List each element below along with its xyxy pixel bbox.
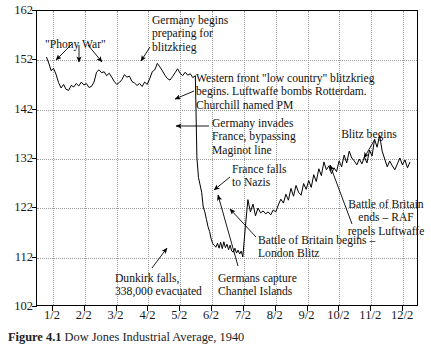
y-axis-tick-mark: [32, 109, 37, 110]
annotation-germany-invades-france: Germany invades France, bypassing Magino…: [212, 117, 296, 157]
annotation-phony-war: "Phony War": [45, 38, 106, 51]
y-axis-tick-label: 142: [14, 101, 33, 116]
figure-container: 162152142132122112102 "Phony War"Germany…: [0, 0, 431, 345]
caption-label: Figure 4.1: [8, 330, 61, 344]
x-axis-tick-mark: [402, 306, 403, 311]
annotation-france-falls: France falls to Nazis: [232, 163, 286, 190]
x-axis-tick-mark: [307, 306, 308, 311]
data-series-line: [37, 11, 417, 305]
y-axis-tick-label: 102: [14, 299, 33, 314]
y-axis-tick-mark: [32, 306, 37, 307]
y-axis-tick-label: 112: [15, 249, 33, 264]
x-axis-tick-mark: [275, 306, 276, 311]
plot-area: [36, 10, 418, 306]
x-axis-tick-mark: [84, 306, 85, 311]
y-axis-tick-mark: [32, 59, 37, 60]
y-axis-tick-label: 122: [14, 200, 33, 215]
x-axis-tick-mark: [179, 306, 180, 311]
x-axis-tick-mark: [243, 306, 244, 311]
x-axis-tick-mark: [211, 306, 212, 311]
y-axis-tick-mark: [32, 158, 37, 159]
annotation-blitz-begins: Blitz begins: [341, 128, 397, 141]
x-axis-tick-mark: [147, 306, 148, 311]
y-axis-tick-mark: [32, 257, 37, 258]
y-axis-ticks: 162152142132122112102: [0, 0, 36, 345]
annotation-germany-blitzkrieg: Germany begins preparing for blitzkrieg: [152, 14, 228, 54]
y-axis-tick-label: 132: [14, 151, 33, 166]
x-axis-tick-mark: [52, 306, 53, 311]
caption-text: Dow Jones Industrial Average, 1940: [61, 330, 244, 344]
annotation-dunkirk-falls: Dunkirk falls, 338,000 evacuated: [115, 272, 202, 299]
x-axis-tick-mark: [116, 306, 117, 311]
figure-caption: Figure 4.1 Dow Jones Industrial Average,…: [8, 330, 428, 344]
annotation-western-front: Western front "low country" blitzkrieg b…: [196, 72, 375, 112]
x-axis-tick-mark: [338, 306, 339, 311]
y-axis-tick-mark: [32, 207, 37, 208]
annotation-battle-britain-begins: Battle of Britain begins – London Blitz: [258, 234, 375, 261]
x-axis-tick-mark: [370, 306, 371, 311]
y-axis-tick-label: 152: [14, 52, 33, 67]
annotation-battle-britain-ends: Battle of Britain ends – RAF repels Luft…: [348, 198, 425, 238]
y-axis-tick-label: 162: [14, 3, 33, 18]
y-axis-tick-mark: [32, 10, 37, 11]
annotation-germans-channel-islands: Germans capture Channel Islands: [218, 272, 297, 299]
